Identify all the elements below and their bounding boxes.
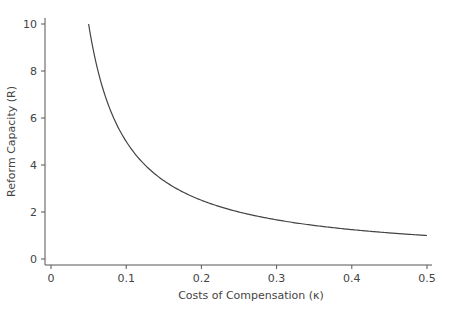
axes bbox=[45, 18, 432, 265]
y-tick-label: 8 bbox=[30, 65, 37, 78]
y-tick-label: 6 bbox=[30, 112, 37, 125]
series-group bbox=[89, 24, 427, 236]
x-tick-label: 0.2 bbox=[193, 272, 211, 285]
x-tick-label: 0.5 bbox=[418, 272, 436, 285]
x-ticks: 00.10.20.30.40.5 bbox=[48, 265, 436, 285]
x-tick-label: 0.4 bbox=[343, 272, 361, 285]
chart: 00.10.20.30.40.5 0246810 Costs of Compen… bbox=[0, 0, 449, 313]
x-tick-label: 0 bbox=[48, 272, 55, 285]
y-axis-title: Reform Capacity (R) bbox=[5, 86, 18, 197]
y-tick-label: 10 bbox=[23, 18, 37, 31]
y-tick-label: 4 bbox=[30, 159, 37, 172]
x-tick-label: 0.1 bbox=[117, 272, 135, 285]
y-tick-label: 0 bbox=[30, 253, 37, 266]
x-axis-title: Costs of Compensation (κ) bbox=[178, 289, 324, 302]
y-ticks: 0246810 bbox=[23, 18, 45, 266]
x-tick-label: 0.3 bbox=[268, 272, 286, 285]
y-tick-label: 2 bbox=[30, 206, 37, 219]
series-line bbox=[89, 24, 427, 236]
